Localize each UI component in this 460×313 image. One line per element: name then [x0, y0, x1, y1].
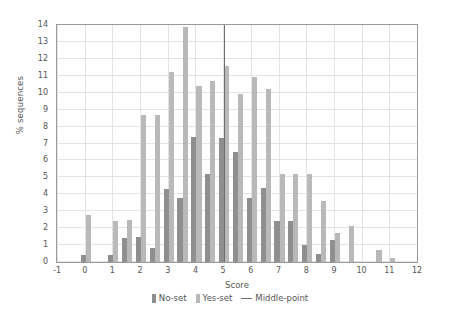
y-tick-label: 2: [43, 224, 48, 232]
gridline-horizontal: [57, 75, 417, 76]
y-tick-label: 12: [38, 55, 48, 63]
x-axis-label: Score: [56, 280, 418, 290]
legend-swatch-icon: [152, 294, 156, 303]
y-tick-label: 5: [43, 173, 48, 181]
legend-label: Middle-point: [255, 293, 308, 303]
bar-yes-set: [141, 115, 146, 262]
x-tick-label: 6: [248, 266, 253, 275]
legend-label: Yes-set: [203, 293, 233, 303]
bar-yes-set: [196, 86, 201, 262]
y-tick-label: 10: [38, 89, 48, 97]
bar-yes-set: [321, 201, 326, 262]
legend-item[interactable]: Yes-set: [196, 293, 233, 303]
x-tick-label: 9: [331, 266, 336, 275]
gridline-vertical: [57, 25, 58, 262]
x-tick-label: 11: [384, 266, 394, 275]
x-tick-label: 0: [82, 266, 87, 275]
bar-yes-set: [155, 115, 160, 262]
chart-container: % sequences 01234567891011121314 -101234…: [0, 0, 460, 313]
legend-label: No-set: [159, 293, 187, 303]
x-tick-label: 5: [221, 266, 226, 275]
gridline-horizontal: [57, 41, 417, 42]
chart-legend: No-setYes-setMiddle-point: [0, 293, 460, 303]
gridline-horizontal: [57, 126, 417, 127]
x-tick-label: 10: [357, 266, 367, 275]
x-tick-label: 12: [412, 266, 422, 275]
y-axis-tick-labels: 01234567891011121314: [0, 24, 52, 263]
bar-yes-set: [252, 77, 257, 262]
gridline-horizontal: [57, 58, 417, 59]
bar-yes-set: [390, 258, 395, 262]
legend-swatch-icon: [196, 294, 200, 303]
bar-yes-set: [376, 250, 381, 262]
bar-yes-set: [169, 72, 174, 262]
legend-item[interactable]: No-set: [152, 293, 187, 303]
middle-point-line: [224, 25, 225, 262]
gridline-vertical: [362, 25, 363, 262]
x-tick-label: 4: [193, 266, 198, 275]
bar-yes-set: [86, 215, 91, 262]
y-tick-label: 0: [43, 258, 48, 266]
y-tick-label: 6: [43, 156, 48, 164]
bar-yes-set: [266, 89, 271, 262]
gridline-horizontal: [57, 143, 417, 144]
x-tick-label: 2: [138, 266, 143, 275]
y-tick-label: 11: [38, 72, 48, 80]
y-tick-label: 14: [38, 21, 48, 29]
gridline-vertical: [389, 25, 390, 262]
bar-yes-set: [335, 233, 340, 262]
gridline-horizontal: [57, 92, 417, 93]
x-tick-label: 3: [165, 266, 170, 275]
y-tick-label: 1: [43, 241, 48, 249]
x-tick-label: 1: [110, 266, 115, 275]
y-tick-label: 9: [43, 106, 48, 114]
bar-yes-set: [127, 220, 132, 262]
gridline-horizontal: [57, 109, 417, 110]
x-tick-label: 8: [304, 266, 309, 275]
plot-area: [56, 24, 418, 263]
y-tick-label: 8: [43, 123, 48, 131]
x-tick-label: -1: [53, 266, 61, 275]
bar-yes-set: [293, 174, 298, 262]
y-tick-label: 7: [43, 140, 48, 148]
y-tick-label: 3: [43, 207, 48, 215]
bar-yes-set: [183, 27, 188, 262]
gridline-horizontal: [57, 24, 417, 25]
bar-yes-set: [238, 94, 243, 262]
gridline-vertical: [417, 25, 418, 262]
x-tick-label: 7: [276, 266, 281, 275]
x-axis-tick-labels: -10123456789101112: [56, 266, 418, 280]
y-tick-label: 13: [38, 38, 48, 46]
bar-yes-set: [280, 174, 285, 262]
bar-yes-set: [307, 174, 312, 262]
bar-yes-set: [113, 221, 118, 262]
bar-yes-set: [210, 81, 215, 262]
gridline-vertical: [334, 25, 335, 262]
legend-line-marker: [241, 298, 252, 299]
bar-yes-set: [349, 226, 354, 262]
legend-item[interactable]: Middle-point: [241, 293, 308, 303]
y-tick-label: 4: [43, 190, 48, 198]
